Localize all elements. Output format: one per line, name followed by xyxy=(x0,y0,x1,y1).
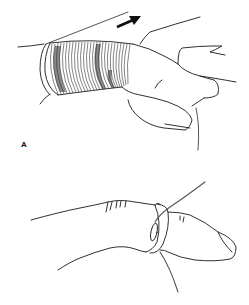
panel-a: A xyxy=(0,0,249,152)
panel-a-illustration xyxy=(0,0,249,152)
panel-b-illustration xyxy=(0,152,249,305)
arrow-icon xyxy=(117,16,141,27)
panel-b: B xyxy=(0,152,249,305)
panel-label-a: A xyxy=(21,140,27,149)
string-tail xyxy=(46,12,128,44)
string xyxy=(155,182,205,292)
